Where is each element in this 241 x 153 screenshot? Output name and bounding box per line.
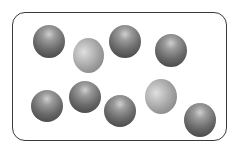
dark-particle-sphere: [69, 81, 101, 113]
dark-particle-sphere: [184, 103, 216, 137]
dark-particle-sphere: [31, 90, 63, 122]
dark-particle-sphere: [104, 95, 136, 127]
dark-particle-sphere: [109, 25, 141, 58]
light-particle-sphere: [145, 79, 177, 114]
light-particle-sphere: [73, 38, 104, 73]
dark-particle-sphere: [33, 25, 65, 58]
dark-particle-sphere: [155, 34, 187, 67]
